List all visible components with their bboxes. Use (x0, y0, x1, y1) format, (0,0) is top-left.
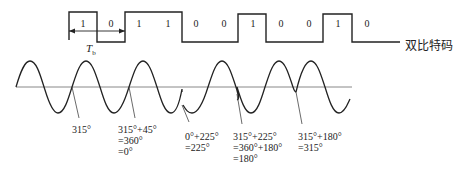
bit-label: 0 (303, 18, 315, 29)
bit-label: 0 (275, 18, 287, 29)
bit-label: 1 (247, 18, 259, 29)
bit-label: 1 (332, 18, 344, 29)
dibit-code-waveform (69, 12, 400, 42)
bit-label: 0 (361, 18, 373, 29)
bit-label: 0 (105, 18, 117, 29)
bit-label: 0 (218, 18, 230, 29)
bit-period-label: Tb (86, 42, 96, 57)
phase-annotation-1: 315° (72, 124, 91, 135)
bit-label: 1 (77, 18, 89, 29)
bit-label: 1 (133, 18, 145, 29)
dibit-code-label: 双比特码 (405, 36, 453, 53)
bit-label: 1 (162, 18, 174, 29)
phase-annotation-4: 315°+225° =360°+180° =180° (233, 131, 282, 164)
phase-annotation-3: 0°+225° =225° (185, 131, 219, 153)
bit-label: 0 (190, 18, 202, 29)
phase-annotation-2: 315°+45° =360° =0° (118, 124, 157, 157)
phase-annotation-5: 315°+180° =315° (298, 131, 342, 153)
